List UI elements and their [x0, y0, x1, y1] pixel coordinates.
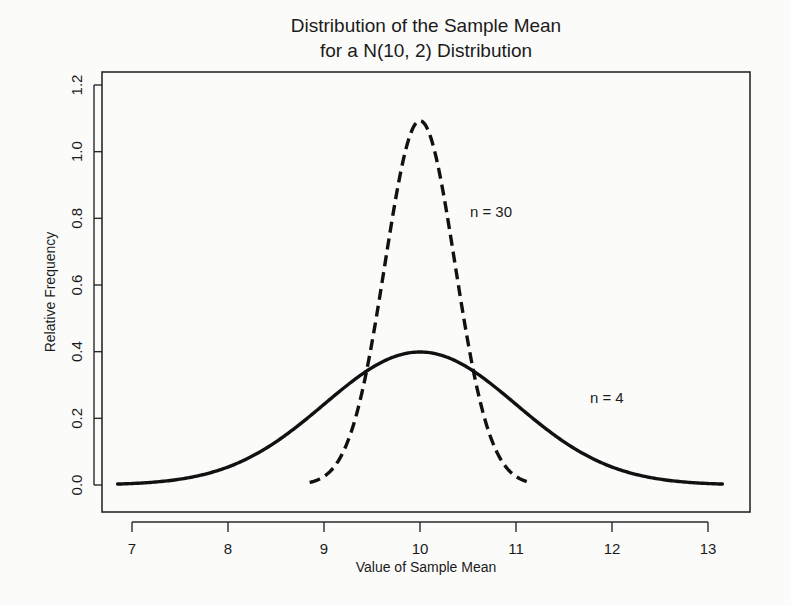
y-tick-label: 0.8: [68, 208, 85, 229]
x-tick-label: 10: [412, 540, 429, 557]
curve-label-n-4: n = 4: [590, 389, 624, 406]
x-axis-title: Value of Sample Mean: [356, 559, 497, 575]
x-tick-label: 13: [700, 540, 717, 557]
y-tick-label: 0.4: [68, 341, 85, 362]
y-axis-title: Relative Frequency: [42, 232, 58, 353]
distribution-chart: Distribution of the Sample Mean for a N(…: [0, 0, 791, 605]
y-tick-label: 0.0: [68, 475, 85, 496]
x-tick-label: 7: [128, 540, 136, 557]
x-tick-label: 8: [224, 540, 232, 557]
chart-title-line-1: Distribution of the Sample Mean: [291, 15, 561, 36]
y-tick-label: 0.2: [68, 408, 85, 429]
figure-page: Distribution of the Sample Mean for a N(…: [0, 0, 791, 605]
chart-title-line-2: for a N(10, 2) Distribution: [320, 40, 532, 61]
x-tick-label: 11: [508, 540, 524, 557]
x-tick-label: 9: [320, 540, 328, 557]
y-tick-label: 1.0: [68, 141, 85, 162]
curve-label-n-30: n = 30: [470, 203, 512, 220]
y-tick-label: 1.2: [68, 75, 85, 96]
chart-background: [0, 0, 791, 605]
y-tick-label: 0.6: [68, 275, 85, 296]
x-tick-label: 12: [604, 540, 621, 557]
